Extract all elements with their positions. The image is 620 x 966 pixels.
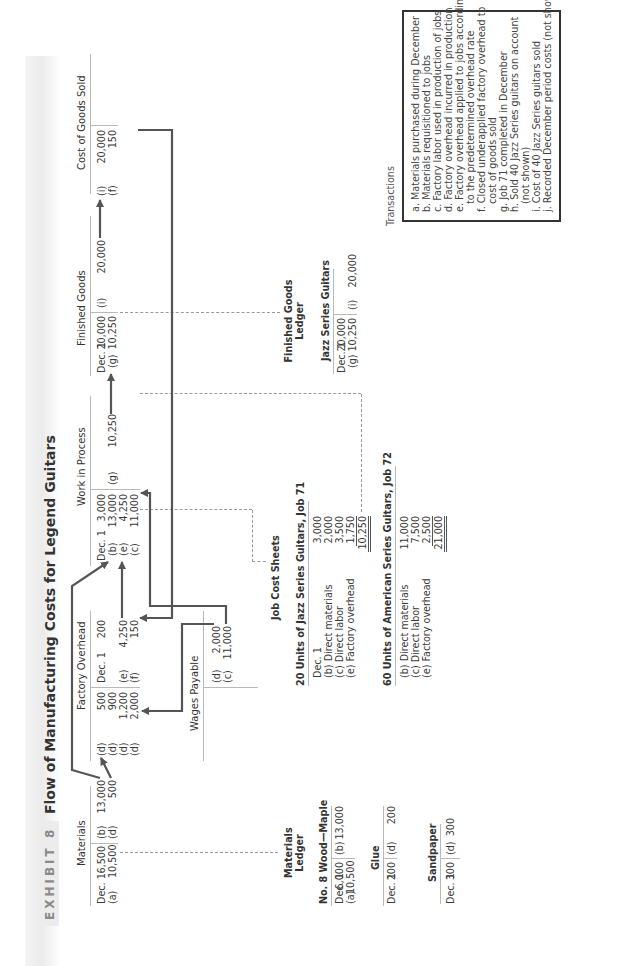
flow-arrows bbox=[0, 0, 620, 966]
arrow-materials-to-wip-icon bbox=[72, 562, 108, 778]
arrow-foh-to-cogs-icon bbox=[138, 130, 172, 618]
arrow-wages-to-wip-icon bbox=[141, 493, 226, 624]
arrow-materials-to-foh-icon bbox=[101, 758, 111, 778]
arrow-wages-to-foh-icon bbox=[142, 624, 214, 711]
exhibit-page: EXHIBIT 8 Flow of Manufacturing Costs fo… bbox=[0, 0, 620, 966]
